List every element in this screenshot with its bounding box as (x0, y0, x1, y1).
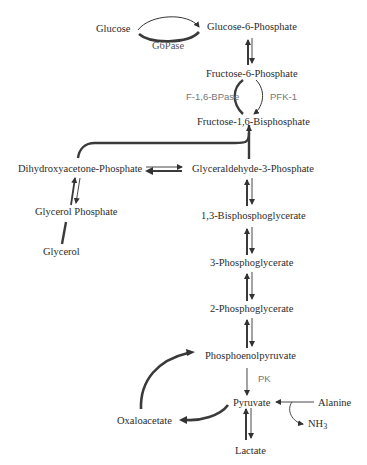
enzyme-pfk1: PFK-1 (270, 92, 297, 102)
enzyme-f16bpase: F-1,6-BPase (186, 92, 239, 102)
label-1-3-bisphosphoglycerate: 1,3-Bisphosphoglycerate (201, 211, 306, 222)
2pg-pep-reversible-arrows (247, 318, 252, 348)
enzyme-pk: PK (258, 374, 271, 384)
glycolysis-gluconeogenesis-diagram: Glucose Glucose-6-Phosphate G6Pase Fruct… (0, 0, 367, 465)
label-3-phosphoglycerate: 3-Phosphoglycerate (210, 258, 293, 269)
glucose-g6p-cycle-arrows (138, 17, 199, 41)
label-glucose: Glucose (96, 24, 130, 35)
g3p-bpg-reversible-arrows (247, 178, 252, 206)
label-glycerol-phosphate: Glycerol Phosphate (35, 207, 118, 218)
glycerol-arrow (62, 222, 66, 244)
ammonia-subscript: 3 (323, 422, 327, 431)
pathway-arrows (0, 0, 367, 465)
label-lactate: Lactate (235, 446, 266, 457)
label-fructose-1-6-bisphosphate: Fructose-1,6-Bisphosphate (197, 117, 310, 128)
3pg-2pg-reversible-arrows (247, 272, 252, 301)
ammonia-text: NH (308, 418, 323, 429)
label-2-phosphoglycerate: 2-Phosphoglycerate (210, 304, 293, 315)
g6p-f6p-reversible-arrows (248, 38, 252, 65)
label-alanine: Alanine (318, 398, 351, 409)
label-ammonia: NH3 (308, 419, 327, 431)
label-glucose-6-phosphate: Glucose-6-Phosphate (207, 22, 297, 33)
bpg-3pg-reversible-arrows (247, 227, 252, 255)
label-pyruvate: Pyruvate (233, 398, 270, 409)
label-glyceraldehyde-3-phosphate: Glyceraldehyde-3-Phosphate (192, 164, 314, 175)
aldolase-split-arrows (78, 125, 252, 159)
dhap-g3p-reversible-arrows (146, 167, 182, 171)
enzyme-g6pase: G6Pase (152, 41, 184, 52)
label-phosphoenolpyruvate: Phosphoenolpyruvate (205, 351, 296, 362)
oxaloacetate-pep-arrow (141, 349, 195, 409)
label-dihydroxyacetone-phosphate: Dihydroxyacetone-Phosphate (18, 164, 142, 175)
pyruvate-lactate-reversible-arrows (246, 408, 251, 440)
label-glycerol: Glycerol (43, 247, 80, 258)
label-fructose-6-phosphate: Fructose-6-Phosphate (206, 69, 298, 80)
pyruvate-oxaloacetate-arrow (179, 405, 228, 424)
dhap-glycerolphosphate-arrows (71, 178, 80, 205)
label-oxaloacetate: Oxaloacetate (117, 416, 172, 427)
